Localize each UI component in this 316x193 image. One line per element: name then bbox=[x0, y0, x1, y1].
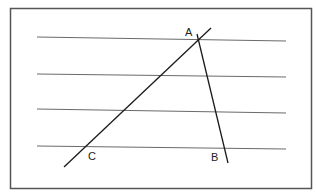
vertex-labels: A C B bbox=[88, 26, 218, 163]
parallel-line-1 bbox=[37, 37, 286, 41]
transversal-ac bbox=[64, 28, 211, 167]
parallel-lines bbox=[37, 37, 286, 149]
parallel-line-3 bbox=[37, 109, 286, 113]
parallel-line-4 bbox=[37, 146, 286, 149]
label-a: A bbox=[185, 26, 193, 38]
label-b: B bbox=[211, 151, 218, 163]
transversal-ab bbox=[197, 34, 228, 163]
label-c: C bbox=[88, 150, 96, 162]
diagram-frame bbox=[11, 9, 312, 189]
geometry-diagram: A C B bbox=[0, 0, 316, 193]
